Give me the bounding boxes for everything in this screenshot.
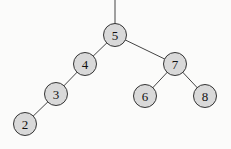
tree-node-2: 2 — [14, 113, 37, 136]
nodes-group: 5473682 — [14, 24, 217, 136]
tree-node-8: 8 — [194, 85, 217, 108]
node-label: 7 — [172, 57, 179, 72]
node-label: 8 — [202, 89, 209, 104]
tree-node-3: 3 — [45, 83, 68, 106]
node-label: 2 — [22, 117, 29, 132]
tree-canvas: 5473682 — [0, 0, 231, 149]
node-label: 4 — [82, 57, 89, 72]
node-label: 5 — [112, 28, 119, 43]
tree-diagram: 5473682 — [0, 0, 231, 149]
node-label: 3 — [53, 87, 60, 102]
tree-node-6: 6 — [134, 85, 157, 108]
tree-node-4: 4 — [74, 53, 97, 76]
tree-node-7: 7 — [164, 53, 187, 76]
tree-node-5: 5 — [104, 24, 127, 47]
node-label: 6 — [142, 89, 149, 104]
